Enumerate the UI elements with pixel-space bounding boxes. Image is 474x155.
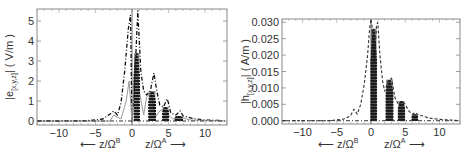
left-xlabel-b-sup: B [116,137,121,144]
y-tick-label: 3 [28,55,34,67]
y-tick-label: 5 [28,15,34,27]
right-xlabel-b-sup: B [354,137,359,144]
left-chart-plot: −10−50510012345|e[x,y,z]| ( V/m ) [0,0,237,155]
right-xlabel-a: z/ΩA ⟶ [384,137,425,151]
y-tick-label: 0.015 [251,66,279,78]
y-tick-label: 0.010 [251,82,279,94]
left-xlabel-b: ⟵ z/ΩB [80,137,121,151]
left-chart-panel: −10−50510012345|e[x,y,z]| ( V/m ) ⟵ z/ΩB… [0,0,237,155]
x-tick-label: 0 [368,126,374,138]
x-tick-label: −10 [293,126,312,138]
y-tick-label: 0.000 [251,115,279,127]
x-tick-label: −10 [50,127,69,139]
left-xlabel-a-sup: A [162,137,167,144]
y-tick-label: 0.005 [251,98,279,110]
left-xlabel-a-text: z/Ω [145,138,162,150]
left-xlabel-a-arrow: ⟶ [170,138,186,150]
y-tick-label: 0.025 [251,33,279,45]
series-line [37,57,223,121]
y-tick-label: 4 [28,35,34,47]
left-xlabel-a: z/ΩA ⟶ [145,137,186,151]
x-tick-label: 0 [129,127,135,139]
y-tick-label: 0.030 [251,16,279,28]
right-xlabel-a-sup: A [401,137,406,144]
y-tick-label: 1 [28,95,34,107]
right-xlabel-b-text: ⟵ z/Ω [318,138,354,150]
series-line [37,11,223,121]
right-chart-panel: −10−505100.0000.0050.0100.0150.0200.0250… [237,0,474,155]
right-xlabel-a-arrow: ⟶ [409,138,425,150]
y-axis-label: |e[x,y,z]| ( V/m ) [3,34,18,100]
series-line [282,19,457,121]
y-tick-label: 0 [28,115,34,127]
left-xlabel-b-text: ⟵ z/Ω [80,138,116,150]
y-tick-label: 0.020 [251,49,279,61]
right-xlabel-a-text: z/Ω [384,138,401,150]
right-xlabel-b: ⟵ z/ΩB [318,137,359,151]
x-tick-label: 10 [199,127,211,139]
right-chart-plot: −10−505100.0000.0050.0100.0150.0200.0250… [237,0,474,155]
x-tick-label: 10 [433,126,445,138]
y-tick-label: 2 [28,75,34,87]
